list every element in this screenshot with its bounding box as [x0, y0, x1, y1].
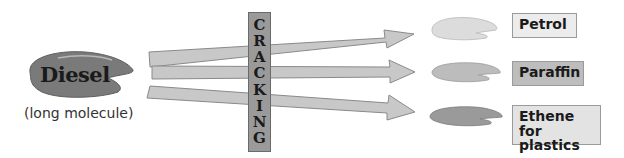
cracking-letter: A — [254, 50, 266, 65]
cracking-letter: C — [254, 66, 266, 81]
paraffin-label: Paraffin — [519, 64, 580, 80]
petrol-label: Petrol — [519, 16, 567, 32]
arrow-to-paraffin — [152, 60, 415, 83]
arrow-to-petrol — [149, 30, 414, 67]
cracking-letter: C — [254, 18, 266, 33]
arrow-to-ethene — [147, 86, 415, 120]
paraffin-molecule-shape — [432, 63, 500, 82]
cracking-letter: K — [253, 83, 266, 98]
cracking-letter: I — [256, 99, 263, 114]
paraffin-label-box: Paraffin — [512, 61, 584, 86]
arrows — [147, 30, 415, 120]
petrol-label-box: Petrol — [512, 13, 577, 38]
ethene-label-line2: for plastics — [519, 124, 594, 153]
diesel-label: Diesel — [40, 62, 110, 87]
source-description: (long molecule) — [24, 105, 133, 121]
ethene-label-box: Ethene for plastics — [512, 105, 601, 145]
ethene-molecule-shape — [430, 107, 502, 126]
cracking-letter: G — [253, 131, 266, 146]
cracking-process-bar: C R A C K I N G — [248, 12, 271, 152]
petrol-molecule-shape — [432, 18, 497, 40]
ethene-label-line1: Ethene — [519, 109, 594, 124]
cracking-letter: N — [253, 115, 267, 130]
cracking-letter: R — [253, 34, 265, 49]
